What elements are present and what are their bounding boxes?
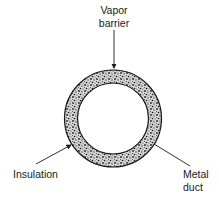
insulation-label: Insulation (13, 168, 58, 181)
vapor-barrier-label-line1: Vapor (98, 4, 130, 17)
insulation-arrow (36, 145, 71, 164)
vapor-barrier-label-line2: barrier (98, 17, 130, 30)
vapor-barrier-outer-edge (65, 70, 162, 167)
metal-duct-label-line1: Metal (183, 168, 209, 181)
metal-duct-leader-line (154, 144, 190, 166)
vapor-barrier-label: Vapor barrier (98, 4, 130, 29)
metal-duct-label-line2: duct (183, 181, 209, 194)
insulation-ring (65, 70, 162, 167)
metal-duct-inner-edge (78, 83, 149, 154)
metal-duct-label: Metal duct (183, 168, 209, 193)
